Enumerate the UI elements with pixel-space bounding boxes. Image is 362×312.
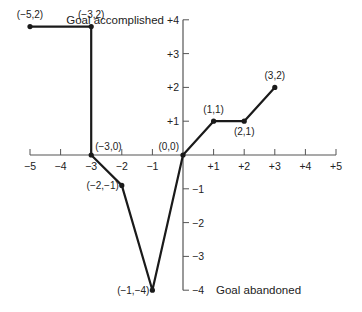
data-point — [150, 288, 155, 293]
data-point — [27, 24, 32, 29]
x-tick-label: +2 — [238, 160, 250, 172]
data-point-label: (0,0) — [158, 141, 179, 152]
point-labels: (−5,2)(−3,2)(−3,0)(−2,−1)(−1,−4)(0,0)(1,… — [17, 9, 285, 297]
data-point-label: (−5,2) — [17, 9, 43, 20]
data-point — [211, 119, 216, 124]
x-tick-label: −4 — [55, 160, 67, 172]
data-point-label: (−3,0) — [95, 141, 121, 152]
data-point-label: (−1,−4) — [117, 285, 149, 296]
data-series — [27, 24, 277, 293]
series-line — [30, 27, 275, 291]
y-axis-bottom-label: Goal abandoned — [216, 284, 301, 296]
goal-progress-chart: −5−4−3−2−1+1+2+3+4+5+4+3+2+1−1−2−3−4 (−5… — [0, 0, 362, 312]
data-point — [242, 119, 247, 124]
y-tick-label: −3 — [192, 250, 204, 262]
y-tick-label: +3 — [167, 48, 179, 60]
x-tick-label: −1 — [146, 160, 158, 172]
x-tick-label: +4 — [299, 160, 311, 172]
data-point-label: (2,1) — [234, 126, 255, 137]
y-tick-label: +4 — [167, 14, 179, 26]
data-point — [272, 85, 277, 90]
y-tick-label: −4 — [192, 284, 204, 296]
x-tick-label: −5 — [24, 160, 36, 172]
y-tick-label: +1 — [167, 115, 179, 127]
y-tick-label: −1 — [192, 183, 204, 195]
x-tick-label: +3 — [269, 160, 281, 172]
y-axis-top-label: Goal accomplished — [66, 14, 164, 26]
x-tick-label: +1 — [208, 160, 220, 172]
data-point — [180, 152, 185, 157]
x-tick-label: −2 — [116, 160, 128, 172]
y-tick-label: −2 — [192, 217, 204, 229]
data-point-label: (−2,−1) — [87, 180, 119, 191]
data-point-label: (3,2) — [265, 70, 286, 81]
data-point — [119, 183, 124, 188]
data-point-label: (1,1) — [203, 104, 224, 115]
data-point — [89, 152, 94, 157]
x-tick-label: −3 — [85, 160, 97, 172]
y-tick-label: +2 — [167, 81, 179, 93]
x-tick-label: +5 — [330, 160, 342, 172]
